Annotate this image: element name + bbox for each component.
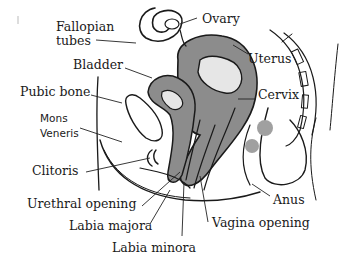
label-fallopian-tubes-line2: tubes	[56, 34, 91, 48]
label-clitoris: Clitoris	[32, 164, 79, 178]
label-cervix: Cervix	[258, 88, 299, 102]
rectum-wall	[243, 125, 250, 185]
label-pubic-bone: Pubic bone	[20, 85, 90, 99]
label-mons-veneris-line1: Mons	[40, 112, 68, 125]
label-anus: Anus	[273, 193, 305, 207]
label-urethral-opening: Urethral opening	[27, 197, 136, 211]
anatomy-diagram: Fallopian tubes Ovary Uterus Bladder Cer…	[0, 0, 356, 272]
label-vagina-opening: Vagina opening	[212, 216, 310, 230]
rectal-tissue	[257, 120, 273, 136]
label-uterus: Uterus	[248, 52, 291, 66]
ovary	[165, 19, 179, 29]
label-fallopian-tubes-line1: Fallopian	[56, 20, 114, 34]
label-labia-majora: Labia majora	[69, 219, 152, 233]
label-ovary: Ovary	[202, 12, 240, 26]
label-labia-minora: Labia minora	[112, 241, 196, 255]
back-outline	[311, 118, 316, 200]
label-bladder: Bladder	[73, 58, 123, 72]
fallopian-tube	[140, 8, 186, 46]
label-mons-veneris-line2: Veneris	[40, 127, 79, 140]
rectal-tissue	[245, 139, 259, 153]
